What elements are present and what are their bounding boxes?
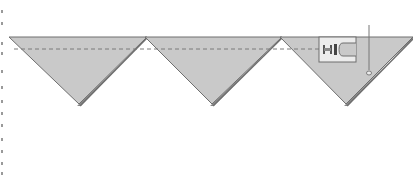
fabric-triangle-1 [9,37,147,106]
sewing-diagram [0,0,413,188]
edge-mark [1,124,3,127]
presser-foot-icon [319,37,356,62]
edge-mark [1,70,3,73]
edge-mark [1,112,3,115]
edge-mark [1,42,3,45]
edge-mark [1,86,3,89]
edge-mark [1,10,3,13]
edge-mark [1,100,3,103]
edge-mark [1,138,3,141]
edge-mark [1,172,3,175]
edge-mark [1,162,3,165]
edge-mark [1,22,3,25]
fabric-triangle-2 [145,37,282,106]
edge-mark [1,150,3,153]
edge-mark [1,52,3,55]
